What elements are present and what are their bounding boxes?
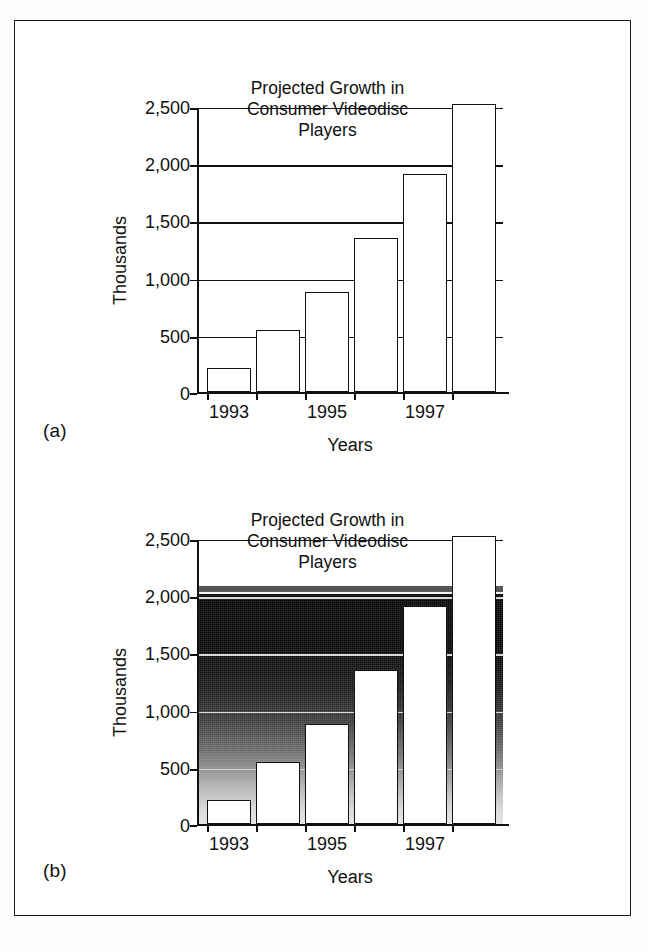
panel-b-ytick-0: 0 xyxy=(118,816,190,837)
panel-b-ytick-500: 500 xyxy=(118,759,190,780)
panel-b-bar-1995 xyxy=(305,724,349,825)
panel-b-tick-1000 xyxy=(190,712,197,714)
panel-a-bar-1997 xyxy=(403,174,447,393)
panel-b-xtick-2 xyxy=(256,826,258,832)
panel-b-xtick-3 xyxy=(305,826,307,832)
panel-a-bar-1998 xyxy=(452,104,496,392)
panel-b-tick-2500 xyxy=(190,540,197,542)
panel-a-bar-1994 xyxy=(256,330,300,392)
panel-b-xtick-label-1995: 1995 xyxy=(287,834,367,855)
panel-b-xtick-6 xyxy=(452,826,454,832)
panel-b-ytick-1000: 1,000 xyxy=(118,702,190,723)
panel-a-bar-1993 xyxy=(207,368,251,392)
panel-b-plot-area xyxy=(197,540,503,826)
panel-b-ytick-2000: 2,000 xyxy=(118,587,190,608)
panel-b-chart-title: Projected Growth in Consumer Videodisc P… xyxy=(210,510,445,573)
panel-b-ytick-2500: 2,500 xyxy=(118,530,190,551)
panel-b-x-axis xyxy=(197,824,509,826)
panel-b-tick-0 xyxy=(190,825,197,827)
panel-b-bar-1997 xyxy=(403,606,447,825)
figure-page: (a) Thousands Projected Growth in Consum… xyxy=(0,0,648,952)
panel-b-xtick-label-1997: 1997 xyxy=(385,834,465,855)
panel-b-xtick-4 xyxy=(354,826,356,832)
panel-b-ytick-1500: 1,500 xyxy=(118,644,190,665)
panel-b-bar-1998 xyxy=(452,536,496,824)
panel-a-chart-title: Projected Growth in Consumer Videodisc P… xyxy=(210,78,445,141)
panel-b-bar-1993 xyxy=(207,800,251,824)
panel-b-xtick-label-1993: 1993 xyxy=(189,834,269,855)
panel-b-letter: (b) xyxy=(43,860,67,882)
panel-b-x-axis-title: Years xyxy=(270,867,430,888)
panel-b-tick-500 xyxy=(190,769,197,771)
panel-b-tick-2000 xyxy=(190,597,197,599)
panel-b-bar-1996 xyxy=(354,670,398,824)
panel-b-tick-1500 xyxy=(190,654,197,656)
panel-a-bar-1995 xyxy=(305,292,349,393)
panel-b-y-axis xyxy=(197,540,199,826)
panel-b: (b) Thousands Projected Growth in Consum… xyxy=(0,0,648,952)
panel-b-xtick-5 xyxy=(403,826,405,832)
panel-b-bar-1994 xyxy=(256,762,300,824)
panel-b-xtick-1 xyxy=(207,826,209,832)
panel-a-bar-1996 xyxy=(354,238,398,392)
